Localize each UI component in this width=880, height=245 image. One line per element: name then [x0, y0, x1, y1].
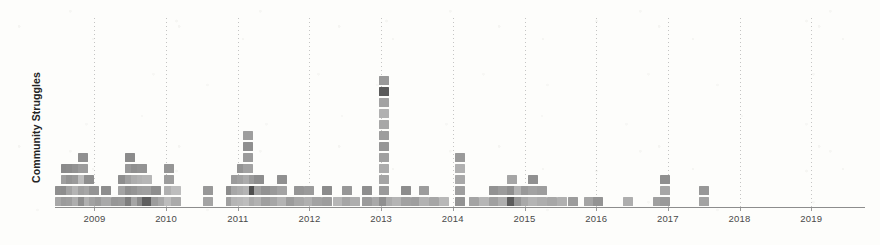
- data-marker: [362, 186, 372, 195]
- data-marker: [362, 197, 372, 206]
- data-marker: [379, 98, 389, 107]
- data-marker: [322, 197, 332, 206]
- data-marker: [547, 197, 557, 206]
- data-marker: [294, 186, 304, 195]
- data-marker: [277, 186, 287, 195]
- x-axis-tick-label-2013: 2013: [370, 213, 392, 224]
- chart-root: Community Struggles 20092010201120122013…: [0, 0, 880, 245]
- data-marker: [660, 175, 670, 184]
- data-marker: [243, 164, 253, 173]
- data-marker: [557, 197, 567, 206]
- data-marker: [203, 197, 213, 206]
- data-marker: [142, 175, 152, 184]
- data-marker: [342, 186, 352, 195]
- data-marker: [312, 197, 322, 206]
- data-marker: [322, 186, 332, 195]
- data-marker: [379, 186, 389, 195]
- data-marker: [699, 186, 709, 195]
- data-marker: [137, 164, 147, 173]
- data-marker: [623, 197, 633, 206]
- data-marker: [171, 186, 181, 195]
- data-marker: [78, 153, 88, 162]
- data-marker: [429, 197, 439, 206]
- x-axis-tick-label-2009: 2009: [83, 213, 105, 224]
- data-marker: [379, 142, 389, 151]
- data-marker: [164, 175, 174, 184]
- data-marker: [379, 87, 389, 96]
- x-axis-line: [55, 207, 865, 208]
- data-marker: [101, 197, 111, 206]
- gridline-2012: [309, 18, 310, 207]
- data-marker: [439, 197, 449, 206]
- data-marker: [294, 197, 304, 206]
- data-marker: [379, 109, 389, 118]
- gridline-2009: [94, 18, 95, 207]
- data-marker: [277, 175, 287, 184]
- data-marker: [379, 120, 389, 129]
- data-marker: [455, 175, 465, 184]
- data-marker: [171, 197, 181, 206]
- x-axis-tick-label-2014: 2014: [442, 213, 464, 224]
- data-marker: [537, 186, 547, 195]
- data-marker: [164, 164, 174, 173]
- data-marker: [151, 186, 161, 195]
- x-axis-tick-label-2019: 2019: [800, 213, 822, 224]
- data-marker: [660, 186, 670, 195]
- gridline-2016: [596, 18, 597, 207]
- y-axis-label: Community Struggles: [30, 72, 42, 183]
- gridline-2018: [740, 18, 741, 207]
- data-marker: [84, 175, 94, 184]
- data-marker: [469, 197, 479, 206]
- data-marker: [455, 186, 465, 195]
- plot-area: 2009201020112012201320142015201620172018…: [55, 18, 865, 212]
- data-marker: [479, 197, 489, 206]
- x-axis-tick-label-2010: 2010: [155, 213, 177, 224]
- data-marker: [507, 175, 517, 184]
- data-marker: [568, 197, 578, 206]
- x-axis-tick-label-2018: 2018: [729, 213, 751, 224]
- data-marker: [254, 175, 264, 184]
- data-marker: [455, 153, 465, 162]
- data-marker: [699, 197, 709, 206]
- data-marker: [243, 131, 253, 140]
- gridline-2019: [811, 18, 812, 207]
- data-marker: [379, 175, 389, 184]
- data-marker: [350, 197, 360, 206]
- data-marker: [243, 142, 253, 151]
- x-axis-tick-label-2011: 2011: [227, 213, 248, 224]
- gridline-2014: [453, 18, 454, 207]
- data-marker: [379, 131, 389, 140]
- data-marker: [101, 186, 111, 195]
- gridline-2015: [525, 18, 526, 207]
- x-axis-tick-label-2016: 2016: [585, 213, 607, 224]
- data-marker: [125, 153, 135, 162]
- data-marker: [379, 153, 389, 162]
- data-marker: [537, 197, 547, 206]
- data-marker: [89, 186, 99, 195]
- data-marker: [528, 175, 538, 184]
- data-marker: [304, 186, 314, 195]
- data-marker: [78, 164, 88, 173]
- data-marker: [455, 164, 465, 173]
- data-marker: [203, 186, 213, 195]
- data-marker: [455, 197, 465, 206]
- data-marker: [379, 76, 389, 85]
- data-marker: [593, 197, 603, 206]
- x-axis-tick-label-2015: 2015: [514, 213, 536, 224]
- data-marker: [419, 186, 429, 195]
- data-marker: [243, 153, 253, 162]
- x-axis-tick-label-2012: 2012: [299, 213, 321, 224]
- data-marker: [401, 197, 411, 206]
- x-axis-tick-label-2017: 2017: [657, 213, 679, 224]
- data-marker: [401, 186, 411, 195]
- data-marker: [660, 197, 670, 206]
- data-marker: [379, 164, 389, 173]
- data-marker: [419, 197, 429, 206]
